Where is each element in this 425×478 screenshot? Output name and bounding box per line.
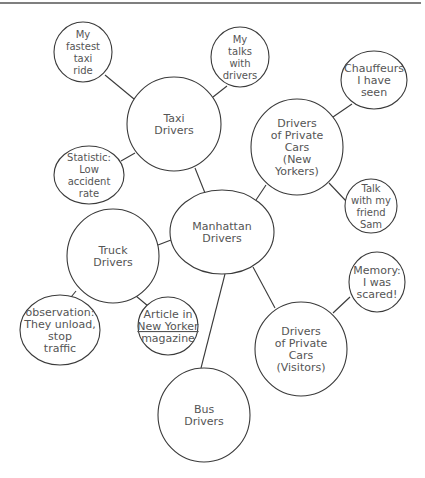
node-sam-label-line: Sam xyxy=(360,219,382,230)
node-private-visitors: Driversof PrivateCars(Visitors) xyxy=(255,302,347,396)
node-truck-label-line: Drivers xyxy=(93,256,133,269)
node-statistic-label-line: Statistic: xyxy=(67,152,111,163)
edge-manhattan-to-private-visitors xyxy=(253,267,275,308)
node-fastest-ride-label-line: fastest xyxy=(66,41,100,52)
node-private-ny: Driversof PrivateCars(NewYorkers) xyxy=(251,99,343,195)
node-talks-label-line: talks xyxy=(228,46,252,57)
node-memory-label-line: scared! xyxy=(357,288,398,301)
cluster-diagram: ManhattanDriversTaxiDriversMyfastesttaxi… xyxy=(0,0,425,478)
node-talks-label-line: drivers xyxy=(223,70,258,81)
edge-talks-to-taxi xyxy=(213,86,227,97)
node-chauffeurs: ChauffeursI haveseen xyxy=(341,51,407,109)
node-statistic-label-line: rate xyxy=(79,188,99,199)
edge-private-ny-to-sam xyxy=(329,183,346,201)
edge-memory-to-private-visitors xyxy=(333,297,350,313)
node-statistic-label-line: accident xyxy=(68,176,111,187)
node-memory: Memory:I wasscared! xyxy=(349,252,405,312)
node-taxi-label-line: Drivers xyxy=(154,124,194,137)
node-manhattan-label-line: Drivers xyxy=(202,232,242,245)
bubble-nodes: ManhattanDriversTaxiDriversMyfastesttaxi… xyxy=(20,22,407,462)
node-sam: Talkwith myfriendSam xyxy=(345,179,397,233)
node-talks-label-line: with xyxy=(229,58,250,69)
edge-fastest-ride-to-taxi xyxy=(105,75,134,99)
node-private-ny-label-line: Yorkers) xyxy=(274,165,319,178)
node-sam-label-line: Talk xyxy=(360,183,380,194)
edge-statistic-to-taxi xyxy=(121,153,135,161)
node-bus: BusDrivers xyxy=(158,368,250,462)
node-sam-label-line: with my xyxy=(351,195,391,206)
node-statistic: Statistic:Lowaccidentrate xyxy=(54,146,124,204)
node-truck: TruckDrivers xyxy=(67,209,159,303)
node-talks-label-line: My xyxy=(233,34,248,45)
node-chauffeurs-label-line: seen xyxy=(361,86,387,99)
node-fastest-ride-label-line: ride xyxy=(73,65,92,76)
node-article: Article inNew Yorkermagazine xyxy=(137,297,199,355)
edge-taxi-to-manhattan xyxy=(195,168,205,193)
node-talks: Mytalkswithdrivers xyxy=(211,27,269,87)
node-private-visitors-label-line: (Visitors) xyxy=(276,361,325,374)
node-fastest-ride-label-line: taxi xyxy=(74,53,93,64)
node-taxi: TaxiDrivers xyxy=(127,77,221,171)
node-article-label-line: magazine xyxy=(141,332,195,345)
node-sam-label-line: friend xyxy=(356,207,385,218)
node-bus-label-line: Drivers xyxy=(184,415,224,428)
edge-truck-to-article xyxy=(136,296,148,306)
node-observation-label-line: traffic xyxy=(44,342,76,355)
edge-private-ny-to-manhattan xyxy=(256,185,266,200)
edge-chauffeurs-to-private-ny xyxy=(333,104,352,117)
node-manhattan: ManhattanDrivers xyxy=(170,190,274,274)
node-fastest-ride: Myfastesttaxiride xyxy=(54,22,112,82)
node-observation: observation:They unload,stoptraffic xyxy=(20,295,100,365)
node-statistic-label-line: Low xyxy=(79,164,99,175)
edge-manhattan-to-bus xyxy=(201,274,225,368)
node-fastest-ride-label-line: My xyxy=(76,29,91,40)
edge-truck-to-manhattan xyxy=(158,240,171,245)
